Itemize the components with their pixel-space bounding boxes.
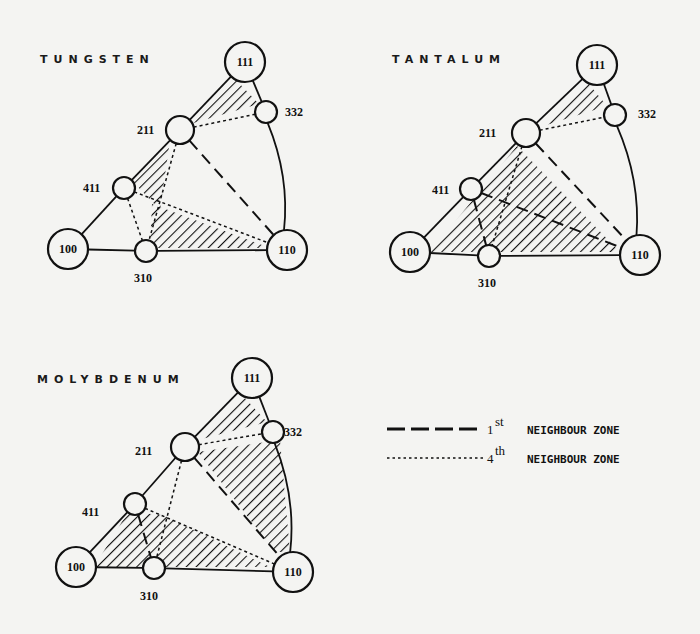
edge-411-100	[82, 196, 117, 234]
node-circle	[512, 119, 540, 147]
node-111: 111	[225, 42, 265, 82]
node-211: 211	[479, 119, 540, 147]
node-circle	[135, 240, 157, 262]
node-circle	[262, 421, 284, 443]
panel-tungsten: 111332211411100310110TUNGSTEN	[40, 42, 307, 285]
legend-suffix: st	[495, 414, 504, 429]
node-label: 110	[284, 565, 301, 579]
node-label: 111	[244, 371, 261, 385]
hatched-region	[150, 204, 270, 248]
edge-310-110	[157, 250, 267, 251]
node-211: 211	[137, 116, 194, 144]
legend-suffix: th	[495, 443, 506, 458]
hatched-region	[198, 440, 290, 552]
node-circle	[460, 178, 482, 200]
legend-label: NEIGHBOUR ZONE	[527, 424, 620, 437]
node-310: 310	[478, 245, 500, 290]
node-label: 110	[278, 243, 295, 257]
fourth-neighbour-line	[128, 198, 143, 240]
node-label: 100	[67, 560, 85, 574]
node-110: 110	[620, 235, 660, 275]
node-411: 411	[83, 177, 135, 199]
node-label: 111	[589, 58, 606, 72]
node-label: 211	[137, 123, 154, 137]
node-label: 100	[401, 245, 419, 259]
edge-100-310	[96, 567, 143, 568]
node-332: 332	[262, 421, 302, 443]
node-circle	[478, 245, 500, 267]
node-332: 332	[255, 101, 303, 123]
node-411: 411	[432, 178, 482, 200]
node-332: 332	[604, 104, 656, 126]
edge-111-332	[604, 84, 611, 105]
node-circle	[143, 557, 165, 579]
node-211: 211	[135, 433, 199, 461]
edge-211-411	[142, 458, 176, 496]
node-label: 100	[59, 242, 77, 256]
node-label: 310	[134, 271, 152, 285]
node-label: 411	[83, 181, 100, 195]
node-label: 411	[82, 505, 99, 519]
node-circle	[166, 116, 194, 144]
node-111: 111	[232, 358, 272, 398]
legend-ordinal: 1	[487, 422, 494, 437]
node-100: 100	[390, 232, 430, 272]
arc-332-110	[617, 126, 637, 235]
node-label: 332	[638, 107, 656, 121]
node-label: 310	[478, 276, 496, 290]
node-circle	[255, 101, 277, 123]
node-100: 100	[56, 547, 96, 587]
node-100: 100	[48, 229, 88, 269]
node-label: 332	[284, 425, 302, 439]
neighbour-zone-diagram: 111332211411100310110TUNGSTEN11133221141…	[0, 0, 700, 634]
panels: 111332211411100310110TUNGSTEN11133221141…	[37, 42, 660, 603]
hatched-region	[540, 83, 607, 127]
edge-100-310	[88, 250, 135, 251]
edge-111-332	[253, 80, 262, 101]
node-circle	[124, 493, 146, 515]
legend: 1stNEIGHBOUR ZONE4thNEIGHBOUR ZONE	[387, 414, 620, 466]
legend-item-dotted: 4thNEIGHBOUR ZONE	[387, 443, 620, 466]
node-circle	[171, 433, 199, 461]
panel-title: TANTALUM	[392, 53, 506, 66]
legend-ordinal: 4	[487, 451, 494, 466]
first-neighbour-line	[189, 140, 273, 235]
panel-molybdenum: 111332211411100310110MOLYBDENUM	[37, 358, 313, 603]
hatched-region	[133, 140, 170, 210]
legend-item-dashed: 1stNEIGHBOUR ZONE	[387, 414, 620, 437]
hatched-region	[198, 396, 267, 440]
node-110: 110	[273, 552, 313, 592]
node-label: 110	[631, 248, 648, 262]
node-label: 310	[140, 589, 158, 603]
edge-310-110	[165, 568, 273, 571]
panel-title: TUNGSTEN	[40, 53, 155, 66]
panel-title: MOLYBDENUM	[37, 373, 185, 386]
edge-100-310	[430, 253, 478, 255]
panel-tantalum: 111332211411100310110TANTALUM	[390, 45, 660, 290]
node-411: 411	[82, 493, 146, 519]
node-label: 211	[479, 126, 496, 140]
node-label: 111	[237, 55, 254, 69]
node-310: 310	[140, 557, 165, 603]
hatched-region	[190, 80, 259, 124]
node-label: 332	[285, 105, 303, 119]
node-label: 211	[135, 444, 152, 458]
node-310: 310	[134, 240, 157, 285]
node-label: 411	[432, 183, 449, 197]
node-circle	[604, 104, 626, 126]
arc-332-110	[268, 123, 286, 230]
node-110: 110	[267, 230, 307, 270]
node-111: 111	[577, 45, 617, 85]
node-circle	[113, 177, 135, 199]
edge-310-110	[500, 255, 620, 256]
legend-label: NEIGHBOUR ZONE	[527, 453, 620, 466]
